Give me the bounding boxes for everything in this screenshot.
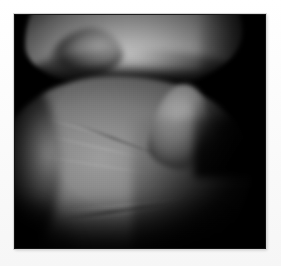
page-root bbox=[0, 0, 281, 266]
scope-bottom-left-corner bbox=[14, 175, 102, 249]
arthroscopic-image-frame bbox=[14, 14, 266, 249]
arthroscopic-scene bbox=[14, 14, 266, 249]
